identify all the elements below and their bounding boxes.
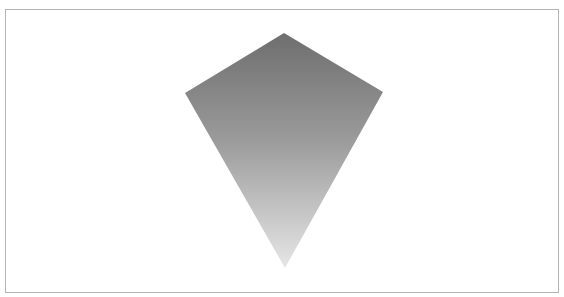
kite-shape [185, 33, 383, 268]
figure-canvas [0, 0, 564, 297]
kite-diagram [0, 0, 564, 297]
